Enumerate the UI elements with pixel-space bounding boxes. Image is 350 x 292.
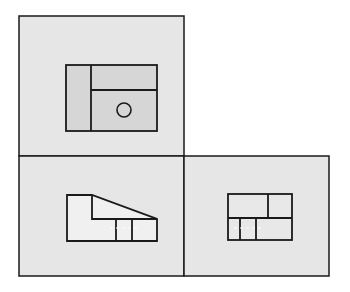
orthographic-drawing bbox=[0, 0, 350, 292]
side-view-outline bbox=[228, 194, 292, 240]
top-view-outline bbox=[66, 65, 157, 131]
top-view bbox=[66, 65, 157, 131]
side-view bbox=[228, 194, 292, 240]
